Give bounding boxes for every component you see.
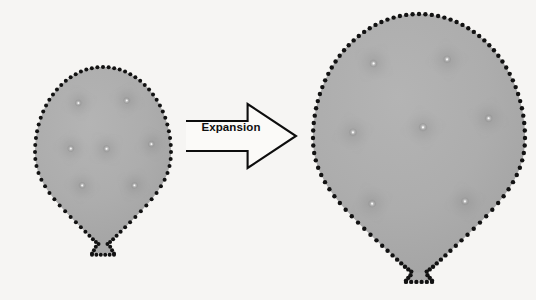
- outline-dot: [357, 34, 361, 38]
- outline-dot: [155, 98, 159, 102]
- outline-dot: [522, 121, 526, 125]
- outline-dot: [94, 240, 98, 244]
- outline-dot: [368, 233, 372, 237]
- outline-dot: [138, 79, 142, 83]
- outline-dot: [168, 164, 172, 168]
- outline-dot: [41, 110, 45, 114]
- knot-dot: [425, 280, 429, 284]
- outline-dot: [454, 244, 458, 248]
- outline-dot: [123, 70, 127, 74]
- outline-dot: [133, 215, 137, 219]
- outline-dot: [119, 230, 123, 234]
- outline-dot: [37, 122, 41, 126]
- outline-dot: [150, 197, 154, 201]
- knot-dot: [409, 280, 413, 284]
- outline-dot: [143, 83, 147, 87]
- outline-dot: [34, 136, 38, 140]
- outline-dot: [466, 26, 470, 30]
- outline-dot: [165, 122, 169, 126]
- outline-dot: [338, 201, 342, 205]
- outline-dot: [87, 234, 91, 238]
- outline-dot: [63, 209, 67, 213]
- outline-dot: [33, 157, 37, 161]
- outline-dot: [511, 180, 515, 184]
- outline-dot: [362, 227, 366, 231]
- outline-dot: [318, 92, 322, 96]
- outline-dot: [508, 72, 512, 76]
- knot-dot: [414, 280, 418, 284]
- outline-dot: [374, 238, 378, 242]
- outline-dot: [347, 43, 351, 47]
- outline-dot: [522, 151, 526, 155]
- knot-dot: [404, 280, 408, 284]
- outline-dot: [423, 12, 427, 16]
- outline-dot: [90, 66, 94, 70]
- outline-dot: [390, 253, 394, 257]
- expansion-label: Expansion: [196, 121, 266, 134]
- outline-dot: [101, 65, 105, 69]
- outline-dot: [442, 15, 446, 19]
- outline-dot: [373, 23, 377, 27]
- figure-canvas: Expansion: [0, 0, 536, 300]
- outline-dot: [36, 171, 40, 175]
- outline-dot: [169, 143, 173, 147]
- outline-dot: [333, 59, 337, 63]
- outline-dot: [58, 203, 62, 207]
- outline-dot: [144, 203, 148, 207]
- outline-dot: [337, 54, 341, 58]
- outline-dot: [504, 65, 508, 69]
- outline-dot: [95, 65, 99, 69]
- outline-dot: [167, 129, 171, 133]
- outline-dot: [501, 194, 505, 198]
- outline-dot: [118, 68, 122, 72]
- outline-dot: [368, 26, 372, 30]
- outline-dot: [105, 242, 109, 246]
- outline-dot: [477, 34, 481, 38]
- outline-dot: [169, 150, 173, 154]
- outline-dot: [435, 261, 439, 265]
- outline-dot: [312, 151, 316, 155]
- outline-dot: [55, 87, 59, 91]
- outline-dot: [516, 92, 520, 96]
- outline-dot: [496, 54, 500, 58]
- outline-dot: [448, 17, 452, 21]
- outline-dot: [84, 68, 88, 72]
- outline-dot: [496, 201, 500, 205]
- outline-dot: [520, 106, 524, 110]
- outline-dot: [454, 20, 458, 24]
- outline-dot: [342, 48, 346, 52]
- outline-dot: [391, 15, 395, 19]
- outline-dot: [115, 234, 119, 238]
- outline-dot: [395, 257, 399, 261]
- outline-dot: [356, 220, 360, 224]
- outline-dot: [316, 99, 320, 103]
- outline-dot: [523, 136, 527, 140]
- knot-dot: [419, 280, 423, 284]
- outline-dot: [511, 78, 515, 82]
- knot-dot: [112, 253, 116, 257]
- outline-dot: [313, 113, 317, 117]
- outline-dot: [410, 12, 414, 16]
- outline-dot: [311, 128, 315, 132]
- outline-dot: [169, 157, 173, 161]
- outline-dot: [500, 59, 504, 63]
- outline-dot: [482, 38, 486, 42]
- outline-dot: [128, 220, 132, 224]
- outline-dot: [69, 75, 73, 79]
- outline-dot: [314, 106, 318, 110]
- outline-dot: [478, 220, 482, 224]
- outline-dot: [460, 23, 464, 27]
- outline-dot: [159, 184, 163, 188]
- knot-dot: [94, 253, 98, 257]
- knot-dot: [430, 280, 434, 284]
- outline-dot: [490, 208, 494, 212]
- knot-dot: [108, 253, 112, 257]
- outline-dot: [311, 136, 315, 140]
- outline-dot: [112, 66, 116, 70]
- knot-dot: [92, 248, 96, 252]
- outline-dot: [312, 121, 316, 125]
- outline-dot: [83, 230, 87, 234]
- outline-dot: [430, 13, 434, 17]
- outline-dot: [465, 233, 469, 237]
- outline-dot: [39, 116, 43, 120]
